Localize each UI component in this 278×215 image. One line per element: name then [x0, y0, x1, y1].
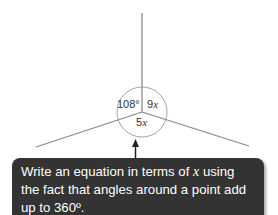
angle-label-5x: 5x — [136, 116, 147, 128]
hint-text-start: Write an equation in terms of — [21, 164, 193, 179]
angle-label-108: 108° — [117, 98, 140, 110]
angle-label-9x: 9x — [147, 98, 158, 110]
left-ray — [36, 112, 142, 147]
right-ray — [142, 112, 249, 146]
hint-callout: Write an equation in terms of x using th… — [12, 158, 264, 215]
pointer-arrow-head-icon — [132, 139, 139, 147]
